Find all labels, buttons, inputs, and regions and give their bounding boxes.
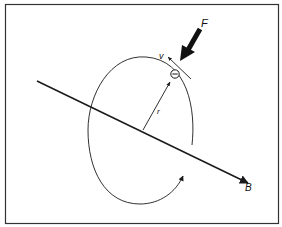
diagram-frame [6, 5, 279, 224]
velocity-label: v [159, 51, 164, 61]
radius-arrow [143, 82, 170, 130]
field-label: B [245, 182, 252, 193]
force-arrow-icon [180, 29, 200, 61]
force-label: F [201, 17, 209, 29]
electron-icon [171, 70, 179, 78]
diagram-canvas: F v r B [0, 0, 282, 227]
radius-label: r [157, 107, 160, 116]
field-line-b [37, 81, 248, 183]
